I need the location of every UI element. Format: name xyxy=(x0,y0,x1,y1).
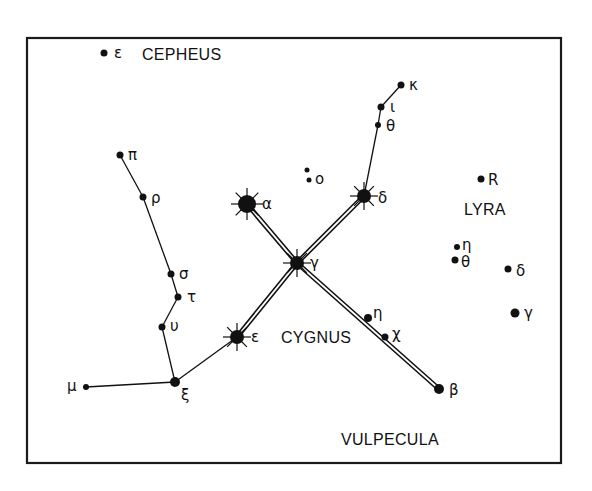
line-cyg-sigma-cyg-tau xyxy=(171,274,178,297)
star-dot-icon xyxy=(398,82,405,89)
star-label: R xyxy=(488,171,498,189)
star-label: ε xyxy=(251,328,259,346)
double-line-cyg-gamma-cyg-epsilon xyxy=(237,263,297,337)
star-label: α xyxy=(262,195,272,213)
star-label: ρ xyxy=(151,189,161,207)
line-cyg-xi-cyg-epsilon xyxy=(175,337,237,382)
double-line-cyg-gamma-cyg-delta xyxy=(297,196,364,263)
star-label: γ xyxy=(524,304,533,322)
asterism-single-lines xyxy=(86,85,401,387)
double-line-cyg-alpha-cyg-gamma xyxy=(247,204,297,263)
star-label: χ xyxy=(392,325,401,343)
star-cyg-sigma: σ xyxy=(168,265,190,283)
star-label: τ xyxy=(187,288,196,306)
line-cyg-delta-cyg-theta xyxy=(364,125,378,196)
star-label: δ xyxy=(516,262,525,280)
star-label: θ xyxy=(386,117,395,135)
star-label: γ xyxy=(310,254,319,272)
star-lyr-delta: δ xyxy=(505,262,526,280)
star-dot-icon xyxy=(364,314,372,322)
star-dot-icon xyxy=(452,257,459,264)
line-cyg-rho-cyg-sigma xyxy=(143,197,171,274)
stars-layer: επρστυξμεγαδθικoηχβRηθδγ xyxy=(67,44,533,404)
star-label: μ xyxy=(67,377,77,395)
star-label: δ xyxy=(378,189,387,207)
star-dot-icon xyxy=(382,334,389,341)
star-dot-icon xyxy=(290,256,304,270)
star-dot-icon xyxy=(378,104,385,111)
star-label: υ xyxy=(170,317,179,335)
star-label: κ xyxy=(409,76,418,94)
star-chart: επρστυξμεγαδθικoηχβRηθδγ CEPHEUS LYRA CY… xyxy=(0,0,592,491)
label-cygnus: CYGNUS xyxy=(281,329,351,346)
star-cyg-upsilon: υ xyxy=(159,317,179,335)
star-cyg-alpha: α xyxy=(231,188,272,220)
asterism-double-lines xyxy=(237,196,439,389)
star-lyr-theta: θ xyxy=(452,253,471,271)
star-dot-icon xyxy=(505,266,512,273)
star-dot-icon xyxy=(454,244,460,250)
star-cyg-theta: θ xyxy=(375,117,395,135)
star-dot-icon xyxy=(511,309,520,318)
star-lyr-gamma: γ xyxy=(511,304,534,322)
star-cyg-pi: π xyxy=(117,146,138,164)
star-label: β xyxy=(449,381,459,399)
star-dot-icon xyxy=(101,50,108,57)
star-dot-icon xyxy=(170,377,180,387)
star-lyr-eta: η xyxy=(454,236,472,254)
star-cyg-kappa: κ xyxy=(398,76,419,94)
star-label: η xyxy=(373,304,383,322)
star-dot-icon xyxy=(434,384,444,394)
star-cyg-o2: o xyxy=(307,170,325,188)
star-cyg-mu: μ xyxy=(67,377,89,395)
star-dot-icon xyxy=(357,189,371,203)
star-label: η xyxy=(462,236,472,254)
star-label: π xyxy=(128,146,137,164)
star-dot-icon xyxy=(305,168,310,173)
star-dot-icon xyxy=(159,324,166,331)
star-label: o xyxy=(315,170,324,188)
star-cyg-rho: ρ xyxy=(140,189,161,207)
star-dot-icon xyxy=(117,152,124,159)
star-dot-icon xyxy=(375,122,381,128)
double-line-cyg-gamma-cyg-beta xyxy=(297,263,439,389)
chart-frame xyxy=(27,38,561,463)
star-dot-icon xyxy=(168,271,175,278)
star-dot-icon xyxy=(238,195,256,213)
star-label: ε xyxy=(114,44,122,62)
label-cepheus: CEPHEUS xyxy=(142,46,221,63)
star-label: ι xyxy=(390,98,395,116)
star-lyr-r: R xyxy=(478,171,499,189)
star-label: ξ xyxy=(181,386,189,404)
star-cyg-chi: χ xyxy=(382,325,402,343)
star-dot-icon xyxy=(230,330,244,344)
star-cyg-beta: β xyxy=(434,381,459,399)
line-cyg-xi-cyg-mu xyxy=(86,382,175,387)
star-label: θ xyxy=(461,253,470,271)
star-cyg-o1 xyxy=(305,168,310,173)
label-lyra: LYRA xyxy=(464,201,506,218)
star-cyg-epsilon: ε xyxy=(223,323,259,351)
label-vulpecula: VULPECULA xyxy=(341,431,439,448)
star-dot-icon xyxy=(140,194,147,201)
star-cep-epsilon: ε xyxy=(101,44,123,62)
line-cyg-upsilon-cyg-xi xyxy=(162,327,175,382)
star-cyg-eta: η xyxy=(364,304,383,322)
star-cyg-tau: τ xyxy=(175,288,197,306)
star-dot-icon xyxy=(307,178,312,183)
star-label: σ xyxy=(179,265,189,283)
star-cyg-xi: ξ xyxy=(170,377,189,404)
star-dot-icon xyxy=(478,176,485,183)
star-dot-icon xyxy=(175,294,182,301)
star-dot-icon xyxy=(83,384,89,390)
